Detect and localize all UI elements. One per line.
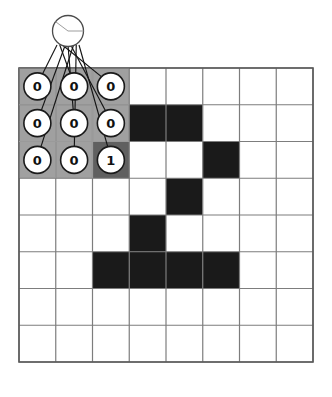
grid-cell[interactable]: [19, 289, 56, 326]
kernel-value-label: 0: [70, 79, 79, 94]
grid-cell[interactable]: [166, 325, 203, 362]
grid-cell[interactable]: [56, 178, 93, 215]
grid-cell[interactable]: [93, 215, 130, 252]
kernel-value-label: 0: [33, 153, 42, 168]
grid-cell[interactable]: [129, 325, 166, 362]
grid-cell[interactable]: [203, 325, 240, 362]
grid-cell[interactable]: [166, 178, 203, 215]
grid-cell[interactable]: [19, 178, 56, 215]
grid-cell[interactable]: [129, 142, 166, 179]
grid-cell[interactable]: [56, 325, 93, 362]
grid-cell[interactable]: [129, 105, 166, 142]
grid-cell[interactable]: [240, 325, 277, 362]
grid-cell[interactable]: [19, 252, 56, 289]
grid-cell[interactable]: [93, 252, 130, 289]
grid-cell[interactable]: [166, 252, 203, 289]
grid-cell[interactable]: [276, 215, 313, 252]
kernel-value-label: 0: [70, 116, 79, 131]
grid-cell[interactable]: [203, 252, 240, 289]
grid-cell[interactable]: [240, 289, 277, 326]
grid-cell[interactable]: [276, 142, 313, 179]
kernel-value-label: 0: [106, 116, 115, 131]
grid-cell[interactable]: [203, 142, 240, 179]
grid-cell[interactable]: [129, 252, 166, 289]
grid-cell[interactable]: [276, 178, 313, 215]
kernel-value-label: 1: [106, 153, 115, 168]
grid-cell[interactable]: [203, 178, 240, 215]
grid-cell[interactable]: [166, 105, 203, 142]
grid-cell[interactable]: [276, 252, 313, 289]
grid-cell[interactable]: [166, 289, 203, 326]
grid-cell[interactable]: [56, 289, 93, 326]
kernel-value-label: 0: [70, 153, 79, 168]
grid-cell[interactable]: [240, 68, 277, 105]
kernel-nodes-layer: 000000001: [24, 73, 125, 174]
grid-cell[interactable]: [240, 252, 277, 289]
grid-cell[interactable]: [166, 142, 203, 179]
grid-cell[interactable]: [93, 178, 130, 215]
grid-cell[interactable]: [93, 289, 130, 326]
grid-cell[interactable]: [129, 68, 166, 105]
grid-cell[interactable]: [203, 289, 240, 326]
grid-cell[interactable]: [276, 289, 313, 326]
kernel-value-label: 0: [33, 79, 42, 94]
grid-cell[interactable]: [203, 215, 240, 252]
grid-cell[interactable]: [19, 215, 56, 252]
grid-cell[interactable]: [166, 215, 203, 252]
grid-cell[interactable]: [240, 105, 277, 142]
grid-cell[interactable]: [56, 252, 93, 289]
grid-cell[interactable]: [93, 325, 130, 362]
grid-cell[interactable]: [129, 178, 166, 215]
grid-cell[interactable]: [276, 325, 313, 362]
output-neuron-layer: [53, 16, 84, 47]
grid-cell[interactable]: [129, 215, 166, 252]
grid-cell[interactable]: [276, 68, 313, 105]
kernel-value-label: 0: [33, 116, 42, 131]
grid-cell[interactable]: [19, 325, 56, 362]
grid-cell[interactable]: [56, 215, 93, 252]
grid-cell[interactable]: [203, 105, 240, 142]
grid-cell[interactable]: [203, 68, 240, 105]
diagram-stage: 000000001: [0, 0, 332, 397]
grid-cell[interactable]: [166, 68, 203, 105]
grid-cell[interactable]: [276, 105, 313, 142]
grid-cell[interactable]: [240, 178, 277, 215]
grid-cell[interactable]: [240, 215, 277, 252]
grid-cell[interactable]: [129, 289, 166, 326]
grid-cell[interactable]: [240, 142, 277, 179]
kernel-value-label: 0: [106, 79, 115, 94]
cnn-receptive-field-canvas: 000000001: [0, 0, 332, 397]
